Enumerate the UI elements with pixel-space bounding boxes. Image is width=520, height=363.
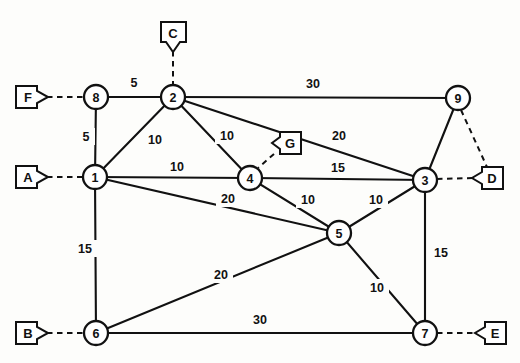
node-6[interactable]: 6	[84, 321, 108, 345]
edge-weight-3-7-text: 15	[434, 246, 448, 260]
node-1[interactable]: 1	[83, 165, 107, 189]
edge-weight-1-4: 10	[165, 158, 189, 175]
edge-9-3	[425, 98, 458, 180]
node-5[interactable]: 5	[327, 221, 351, 245]
edge-weight-layer: 5 5 10 10 30 20	[73, 74, 453, 328]
terminal-F-shape	[16, 86, 48, 108]
terminal-C[interactable]: C	[161, 22, 186, 52]
edge-weight-8-2-text: 5	[131, 76, 138, 90]
node-3-label: 3	[422, 174, 429, 188]
terminal-A-label: A	[23, 170, 33, 185]
edge-4-3	[250, 178, 425, 180]
terminal-F-label: F	[24, 90, 32, 105]
terminal-A[interactable]: A	[16, 166, 48, 188]
network-graph-canvas: F C A G D	[0, 0, 520, 363]
edge-weight-4-3-text: 15	[331, 161, 345, 175]
terminal-G[interactable]: G	[272, 132, 301, 154]
lead-9-D	[461, 110, 487, 167]
node-1-label: 1	[92, 171, 99, 185]
node-6-label: 6	[93, 327, 100, 341]
edge-weight-3-7: 15	[429, 244, 453, 261]
edge-weight-2-3-text: 20	[332, 129, 346, 143]
edge-weight-6-7: 30	[248, 311, 272, 328]
edge-weight-4-3: 15	[326, 159, 350, 176]
terminal-G-label: G	[285, 136, 295, 151]
node-5-label: 5	[336, 227, 343, 241]
node-7[interactable]: 7	[413, 321, 437, 345]
edge-weight-1-4-text: 10	[170, 160, 184, 174]
edge-weight-2-9: 30	[301, 75, 325, 92]
edge-weight-5-7: 10	[365, 279, 389, 296]
terminal-D-label: D	[487, 171, 496, 186]
node-layer: 8 2 9 1 4 3 5	[83, 85, 470, 345]
network-diagram: F C A G D	[0, 0, 520, 363]
edge-4-5	[250, 178, 339, 233]
node-8[interactable]: 8	[84, 85, 108, 109]
edge-weight-2-9-text: 30	[306, 77, 320, 91]
edge-weight-1-5-text: 20	[221, 192, 235, 206]
node-2-label: 2	[170, 91, 177, 105]
edge-weight-2-4-text: 10	[220, 129, 234, 143]
terminal-C-label: C	[168, 26, 178, 41]
edge-weight-8-1: 5	[78, 128, 95, 145]
terminal-F[interactable]: F	[16, 86, 48, 108]
lead-G-4	[258, 154, 274, 168]
node-4-label: 4	[247, 172, 254, 186]
edge-weight-2-4: 10	[215, 127, 239, 144]
edge-weight-4-5: 10	[296, 191, 320, 208]
edge-weight-6-5: 20	[209, 266, 233, 283]
edge-weight-4-5-text: 10	[301, 193, 315, 207]
edge-weight-1-5: 20	[216, 190, 240, 207]
edge-weight-6-7-text: 30	[253, 313, 267, 327]
edge-weight-8-2: 5	[126, 74, 143, 91]
edge-weight-1-2: 10	[143, 131, 167, 148]
node-7-label: 7	[422, 327, 429, 341]
edge-weight-1-2-text: 10	[148, 133, 162, 147]
edge-weight-1-6: 15	[73, 240, 97, 257]
node-2[interactable]: 2	[161, 85, 185, 109]
terminal-D[interactable]: D	[472, 167, 503, 189]
edge-weight-5-7-text: 10	[370, 281, 384, 295]
edge-weight-8-1-text: 5	[83, 130, 90, 144]
node-9[interactable]: 9	[446, 86, 470, 110]
node-8-label: 8	[93, 91, 100, 105]
edge-weight-5-3-text: 10	[369, 193, 383, 207]
edge-2-9	[173, 97, 458, 98]
edge-1-4	[95, 177, 250, 178]
terminal-B[interactable]: B	[16, 322, 48, 344]
edge-weight-1-6-text: 15	[78, 242, 92, 256]
edge-weight-6-5-text: 20	[214, 268, 228, 282]
terminal-B-label: B	[23, 326, 32, 341]
node-9-label: 9	[455, 92, 462, 106]
edge-weight-2-3: 20	[327, 127, 351, 144]
edge-weight-5-3: 10	[364, 191, 388, 208]
node-3[interactable]: 3	[413, 168, 437, 192]
terminal-E[interactable]: E	[475, 322, 506, 344]
terminal-E-label: E	[491, 326, 500, 341]
node-4[interactable]: 4	[238, 166, 262, 190]
